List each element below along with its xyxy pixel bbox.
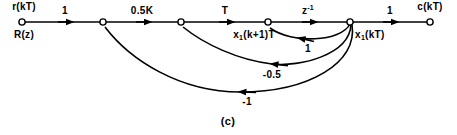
gain-label-feedback-half: -0.5 — [263, 70, 281, 80]
node-summing-3[interactable] — [178, 19, 184, 25]
state-base: x — [355, 29, 361, 40]
figure-caption: (c) — [221, 116, 235, 127]
input-node-label-above: r(kT) — [12, 2, 36, 12]
state-rest: (kT) — [365, 29, 385, 40]
gain-label-feedback-unity: 1 — [305, 44, 311, 54]
delay-exponent: -1 — [307, 4, 314, 11]
node-output-c[interactable] — [427, 19, 433, 25]
node-summing-2[interactable] — [100, 19, 106, 25]
state-next-rest: (k+1)T — [243, 29, 275, 40]
gain-label-branch-3: T — [222, 6, 228, 16]
node-state[interactable] — [347, 19, 353, 25]
input-node-label-below: R(z) — [14, 30, 34, 40]
state-next-node-label: x1(k+1)T — [233, 30, 275, 40]
signal-flow-graph-figure: r(kT) R(z) 1 0.5K T z-1 1 c(kT) x1(k+1)T… — [0, 0, 457, 135]
feedback-path-n5-to-n4 — [270, 24, 350, 39]
gain-label-branch-4-delay: z-1 — [302, 6, 314, 16]
node-state-next[interactable] — [265, 19, 271, 25]
output-node-label: c(kT) — [417, 2, 442, 12]
gain-label-feedback-neg-unity: -1 — [242, 97, 252, 107]
gain-label-branch-1: 1 — [62, 6, 68, 16]
gain-label-branch-5: 1 — [387, 6, 393, 16]
state-subscript: 1 — [361, 34, 365, 41]
state-node-label: x1(kT) — [355, 30, 385, 40]
state-next-subscript: 1 — [239, 34, 243, 41]
state-next-base: x — [233, 29, 239, 40]
node-input-r[interactable] — [19, 19, 25, 25]
gain-label-branch-2: 0.5K — [131, 6, 153, 16]
feedback-branch-unity — [270, 24, 350, 42]
